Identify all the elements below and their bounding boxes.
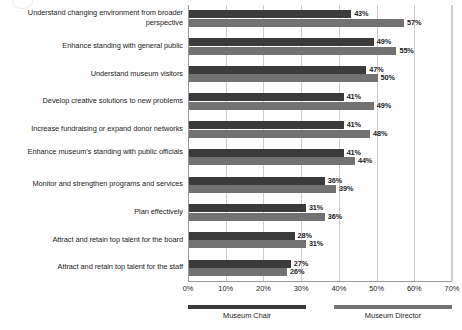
bar-group: 31%36%	[189, 204, 451, 223]
category-label: Enhance museum's standing with public of…	[0, 147, 183, 156]
legend-swatch	[334, 305, 452, 309]
chart-figure: Understand changing environment from bro…	[0, 0, 462, 330]
bar-dir[interactable]	[189, 240, 306, 248]
bar-chair[interactable]	[189, 10, 351, 18]
bar-value-label: 48%	[373, 129, 387, 138]
bar-group: 43%57%	[189, 10, 451, 29]
x-axis-tick-labels: 0%10%20%30%40%50%60%70%	[188, 284, 452, 298]
bar-value-label: 31%	[309, 239, 323, 248]
bar-value-label: 55%	[399, 46, 413, 55]
x-axis-tick: 50%	[369, 284, 384, 293]
category-label: Monitor and strengthen programs and serv…	[0, 179, 183, 188]
category-label: Attract and retain top talent for the bo…	[0, 235, 183, 244]
x-axis-tick: 70%	[445, 284, 460, 293]
x-axis-tick: 0%	[183, 284, 194, 293]
bar-value-label: 41%	[347, 120, 361, 129]
bar-group: 41%44%	[189, 149, 451, 168]
category-axis-labels: Understand changing environment from bro…	[0, 5, 183, 282]
bar-chair[interactable]	[189, 121, 344, 129]
bar-value-label: 31%	[309, 203, 323, 212]
legend-entry[interactable]: Museum Chair	[188, 305, 306, 320]
bar-chair[interactable]	[189, 177, 325, 185]
category-label: Increase fundraising or expand donor net…	[0, 124, 183, 133]
category-label: Attract and retain top talent for the st…	[0, 262, 183, 271]
category-label: Develop creative solutions to new proble…	[0, 96, 183, 105]
bar-dir[interactable]	[189, 185, 336, 193]
x-axis-tick: 40%	[331, 284, 346, 293]
bar-value-label: 49%	[377, 37, 391, 46]
chart-legend: Museum ChairMuseum Director	[188, 305, 452, 327]
bar-group: 36%39%	[189, 177, 451, 196]
bar-chair[interactable]	[189, 66, 366, 74]
x-axis-tick: 10%	[218, 284, 233, 293]
bar-dir[interactable]	[189, 74, 378, 82]
bar-value-label: 49%	[377, 101, 391, 110]
bar-dir[interactable]	[189, 157, 355, 165]
bar-dir[interactable]	[189, 268, 287, 276]
category-label: Plan effectively	[0, 207, 183, 216]
bar-dir[interactable]	[189, 130, 370, 138]
x-axis-tick: 60%	[407, 284, 422, 293]
bar-chair[interactable]	[189, 204, 306, 212]
category-label: Understand museum visitors	[0, 69, 183, 78]
bar-group: 41%48%	[189, 121, 451, 140]
bar-value-label: 36%	[328, 212, 342, 221]
category-label: Understand changing environment from bro…	[0, 8, 183, 27]
bar-group: 41%49%	[189, 93, 451, 112]
bar-dir[interactable]	[189, 213, 325, 221]
category-label: Enhance standing with general public	[0, 41, 183, 50]
bar-group: 27%26%	[189, 260, 451, 279]
bar-value-label: 57%	[407, 18, 421, 27]
bar-value-label: 50%	[381, 73, 395, 82]
bar-value-label: 39%	[339, 184, 353, 193]
bar-dir[interactable]	[189, 47, 396, 55]
legend-swatch	[188, 305, 306, 309]
x-axis-tick: 30%	[294, 284, 309, 293]
x-axis-tick: 20%	[256, 284, 271, 293]
bar-value-label: 41%	[347, 92, 361, 101]
gridline	[452, 5, 453, 281]
bar-chair[interactable]	[189, 260, 291, 268]
bar-value-label: 43%	[354, 9, 368, 18]
bar-chair[interactable]	[189, 93, 344, 101]
bar-value-label: 44%	[358, 156, 372, 165]
bar-chair[interactable]	[189, 149, 344, 157]
bar-group: 47%50%	[189, 66, 451, 85]
bar-group: 49%55%	[189, 38, 451, 57]
bar-dir[interactable]	[189, 19, 404, 27]
bar-dir[interactable]	[189, 102, 374, 110]
bar-group: 28%31%	[189, 232, 451, 251]
bar-chair[interactable]	[189, 38, 374, 46]
plot-area: 43%57%49%55%47%50%41%49%41%48%41%44%36%3…	[188, 5, 452, 282]
bar-value-label: 26%	[290, 267, 304, 276]
legend-entry[interactable]: Museum Director	[334, 305, 452, 320]
legend-label: Museum Director	[334, 311, 452, 320]
legend-label: Museum Chair	[188, 311, 306, 320]
bar-chair[interactable]	[189, 232, 295, 240]
